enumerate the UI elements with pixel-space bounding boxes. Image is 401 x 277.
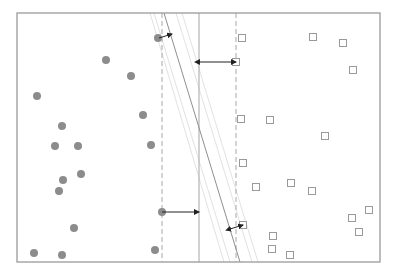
circle-point <box>58 122 66 130</box>
square-point <box>322 133 329 140</box>
guide-lines <box>162 13 240 262</box>
circle-point <box>154 34 162 42</box>
circle-point <box>33 92 41 100</box>
margin-arrows <box>159 34 243 229</box>
square-point <box>349 215 356 222</box>
square-point <box>270 233 277 240</box>
circle-point <box>70 224 78 232</box>
diagonal-decision-boundary <box>164 13 240 262</box>
square-point <box>310 34 317 41</box>
circle-point <box>151 246 159 254</box>
square-point <box>269 246 276 253</box>
square-point <box>238 116 245 123</box>
square-point <box>267 117 274 124</box>
svm-diagram <box>0 0 401 277</box>
square-point <box>309 188 316 195</box>
faint-diagonal-line <box>154 13 230 262</box>
square-point <box>239 35 246 42</box>
circle-point <box>30 249 38 257</box>
square-point <box>240 160 247 167</box>
data-points <box>30 34 373 260</box>
circle-point <box>55 187 63 195</box>
square-point <box>356 229 363 236</box>
circle-point <box>77 170 85 178</box>
circle-point <box>51 142 59 150</box>
circle-point <box>58 251 66 259</box>
circle-point <box>127 72 135 80</box>
square-point <box>288 180 295 187</box>
square-point <box>287 252 294 259</box>
circle-point <box>74 142 82 150</box>
square-point <box>366 207 373 214</box>
square-point <box>253 184 260 191</box>
square-point <box>340 40 347 47</box>
circle-point <box>147 141 155 149</box>
square-point <box>350 67 357 74</box>
circle-point <box>139 111 147 119</box>
circle-point <box>59 176 67 184</box>
circle-point <box>102 56 110 64</box>
